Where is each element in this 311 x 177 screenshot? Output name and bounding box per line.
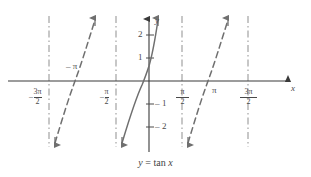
x-label-neg-three-pi-over-two-numerator: 3π xyxy=(34,88,42,96)
x-label-pi-over-two: π 2 xyxy=(176,88,189,107)
x-label-neg-three-pi-over-two-denominator: 2 xyxy=(34,98,42,106)
y-axis-label: y xyxy=(155,16,159,25)
x-label-neg-three-pi-over-two-sign: – xyxy=(29,93,33,101)
y-tick-label-neg-2: 2 xyxy=(162,122,167,131)
x-label-three-pi-over-two: 3π 2 xyxy=(240,88,257,107)
caption-equation: = tan xyxy=(145,157,165,168)
y-tick-label-neg-1: 1 xyxy=(162,99,167,108)
y-tick-label-neg-2-sign: – xyxy=(155,122,160,131)
x-label-pi-over-two-numerator: π xyxy=(176,88,189,96)
x-label-neg-pi-over-two-sign: – xyxy=(100,93,104,101)
x-label-neg-pi-over-two-denominator: 2 xyxy=(105,98,109,106)
caption-y: y xyxy=(138,157,142,168)
x-label-three-pi-over-two-denominator: 2 xyxy=(240,98,257,106)
x-label-neg-pi: – π xyxy=(66,62,77,71)
tangent-function-graph: 2 1 – 1 – 2 y x – 3π 2 – π – π 2 π 2 π 3… xyxy=(0,0,311,177)
y-tick-label-1: 1 xyxy=(138,53,143,62)
x-label-neg-pi-over-two: – π 2 xyxy=(100,88,128,107)
caption-x: x xyxy=(168,157,172,168)
y-tick-label-2: 2 xyxy=(138,30,143,39)
y-tick-label-neg-1-sign: – xyxy=(155,99,160,108)
x-label-pi-over-two-denominator: 2 xyxy=(176,98,189,106)
x-label-neg-three-pi-over-two: – 3π 2 xyxy=(29,88,63,107)
figure-caption: y = tan x xyxy=(0,157,311,168)
x-axis-label: x xyxy=(291,84,295,93)
x-label-three-pi-over-two-numerator: 3π xyxy=(240,88,257,96)
x-label-pi: π xyxy=(212,86,217,95)
x-label-neg-pi-over-two-numerator: π xyxy=(105,88,109,96)
